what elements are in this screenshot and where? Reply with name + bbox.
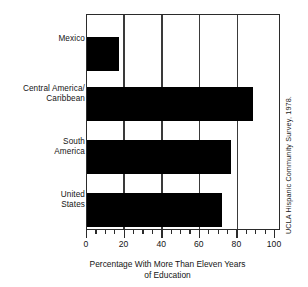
tick-major-80 <box>236 230 237 238</box>
x-axis-ticks <box>86 230 280 239</box>
x-tick-label-0: 0 <box>84 239 89 249</box>
tick-minor-35 <box>152 230 153 234</box>
tick-minor-50 <box>180 230 181 234</box>
tick-minor-75 <box>227 230 228 234</box>
x-tick-label-40: 40 <box>156 239 166 249</box>
bar-mexico <box>87 37 119 71</box>
tick-minor-30 <box>142 230 143 234</box>
bar-south-america <box>87 140 231 174</box>
tick-minor-15 <box>114 230 115 234</box>
x-tick-label-20: 20 <box>119 239 129 249</box>
gridline-80 <box>237 15 238 229</box>
x-tick-label-60: 60 <box>194 239 204 249</box>
tick-minor-65 <box>208 230 209 234</box>
tick-minor-5 <box>95 230 96 234</box>
x-tick-label-80: 80 <box>232 239 242 249</box>
tick-major-20 <box>124 230 125 238</box>
tick-major-0 <box>86 230 87 238</box>
x-axis-title-line1: Percentage With More Than Eleven Years <box>60 259 275 270</box>
category-label-mexico: Mexico <box>0 34 85 44</box>
bar-united-states <box>87 193 222 227</box>
tick-minor-70 <box>218 230 219 234</box>
tick-major-60 <box>199 230 200 238</box>
tick-minor-85 <box>246 230 247 234</box>
category-label-central-america-caribbean: Central America/ Caribbean <box>0 84 85 104</box>
tick-minor-45 <box>171 230 172 234</box>
source-note: UCLA Hispanic Community Survey, 1978. <box>284 96 293 234</box>
category-label-united-states: United States <box>0 190 85 210</box>
x-axis-title-line2: of Education <box>60 270 275 281</box>
bar-chart-figure: Mexico Central America/ Caribbean South … <box>0 0 308 287</box>
tick-minor-95 <box>265 230 266 234</box>
tick-minor-90 <box>255 230 256 234</box>
x-axis-title: Percentage With More Than Eleven Years o… <box>60 259 275 281</box>
x-tick-label-100: 100 <box>267 239 281 249</box>
tick-major-40 <box>161 230 162 238</box>
tick-minor-25 <box>133 230 134 234</box>
tick-minor-55 <box>189 230 190 234</box>
tick-major-100 <box>274 230 275 238</box>
tick-minor-10 <box>105 230 106 234</box>
bar-central-america-caribbean <box>87 87 253 121</box>
plot-area <box>86 14 280 230</box>
category-label-south-america: South America <box>0 137 85 157</box>
